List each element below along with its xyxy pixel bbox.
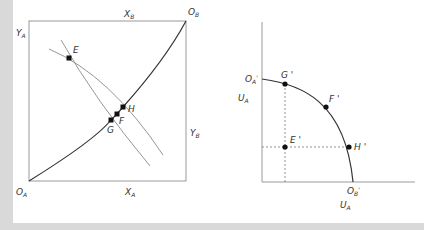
label-origin-b: OB [188, 7, 199, 18]
label-origin-a-prime: OA' [245, 74, 258, 85]
label-h: H [128, 104, 135, 114]
diagram-canvas: E H F G XB OB YA YB OA XA G ' F ' E ' H … [0, 0, 424, 230]
label-origin-b-prime: OB' [347, 186, 360, 197]
label-y-axis-ua: UA [238, 93, 249, 104]
label-y-b: YB [190, 128, 200, 139]
label-origin-a: OA [16, 187, 27, 198]
label-e-prime: E ' [290, 135, 301, 145]
point-g-prime [282, 81, 287, 86]
label-x-a: XA [124, 187, 135, 198]
contract-curve [29, 21, 186, 181]
label-x-axis-ua: UA [340, 200, 351, 211]
indifference-curve-a [61, 40, 150, 166]
point-e [67, 56, 72, 61]
point-h [121, 105, 126, 110]
indifference-curve-b [49, 49, 163, 155]
edgeworth-box: E H F G XB OB YA YB OA XA [16, 7, 200, 198]
label-f-prime: F ' [329, 94, 340, 104]
label-f: F [119, 116, 125, 126]
label-g: G [107, 125, 114, 135]
point-h-prime [346, 144, 351, 149]
utility-frontier: G ' F ' E ' H ' OA' UA OB' UA [238, 22, 415, 211]
point-f-prime [323, 104, 328, 109]
label-g-prime: G ' [281, 70, 293, 80]
point-g [109, 118, 114, 123]
label-y-a: YA [16, 28, 26, 39]
point-e-prime [282, 144, 287, 149]
label-x-b: XB [123, 9, 134, 20]
label-h-prime: H ' [354, 142, 366, 152]
label-e: E [73, 45, 79, 55]
box-frame [29, 21, 186, 181]
